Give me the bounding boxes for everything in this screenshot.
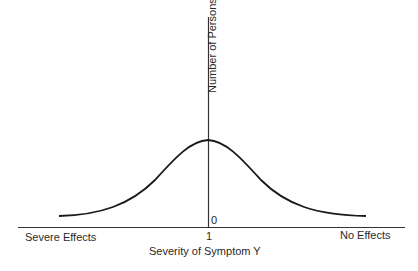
y-origin-label: 0 [211, 214, 217, 226]
x-tick-center: 1 [206, 230, 212, 242]
distribution-curve [59, 140, 366, 216]
x-tick-left: Severe Effects [25, 231, 96, 243]
y-axis-label: Number of Persons [206, 0, 218, 93]
x-tick-right: No Effects [340, 229, 391, 241]
x-axis-label: Severity of Symptom Y [149, 245, 261, 257]
